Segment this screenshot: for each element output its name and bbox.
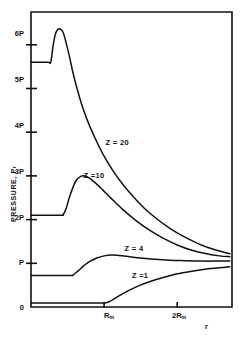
- ytick-label-0: 0: [2, 303, 24, 312]
- curve-label-z10: Z =10: [84, 171, 105, 180]
- chart-canvas: [0, 0, 245, 338]
- curve-label-z1: Z =1: [132, 271, 148, 280]
- y-axis-title-text: PRESSURE, P: [10, 168, 17, 222]
- curve-label-z20: Z = 20: [106, 138, 129, 147]
- ytick-label-6P: 6P: [2, 29, 24, 38]
- plot-frame: [31, 12, 232, 307]
- figure-panel: 6P 5P 4P 3P 2P P 0 Rm 2Rm PRESSURE, Pr r…: [0, 0, 245, 338]
- xtick-2Rm-base: 2R: [172, 311, 182, 320]
- xtick-2Rm-sub: m: [182, 314, 187, 320]
- x-axis-title: r: [205, 322, 208, 331]
- y-axis-title: PRESSURE, Pr: [10, 166, 17, 222]
- data-curves: [31, 29, 230, 303]
- ytick-label-P: P: [2, 258, 24, 267]
- xtick-label-2Rm: 2Rm: [172, 311, 186, 320]
- xtick-label-Rm: Rm: [104, 311, 114, 320]
- y-axis-title-sub: r: [12, 166, 17, 168]
- ytick-label-5P: 5P: [2, 75, 24, 84]
- curve-label-z4: Z = 4: [125, 244, 144, 253]
- xtick-Rm-sub: m: [109, 314, 114, 320]
- ytick-label-4P: 4P: [2, 121, 24, 130]
